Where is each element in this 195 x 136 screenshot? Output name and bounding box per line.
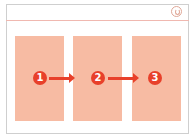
- header-divider: [6, 20, 189, 21]
- step-badge-1: 1: [33, 71, 47, 85]
- power-icon[interactable]: [171, 6, 182, 17]
- step-badge-2: 2: [91, 71, 105, 85]
- step-badge-3: 3: [148, 71, 162, 85]
- arrow-2-to-3: [108, 77, 136, 80]
- arrow-1-to-2: [49, 77, 72, 80]
